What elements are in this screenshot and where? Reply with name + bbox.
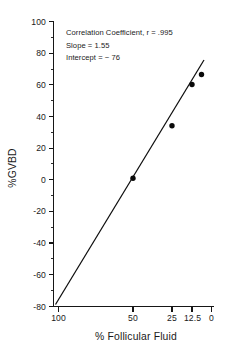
statistics-annotation: Correlation Coefficient, r = .995 Slope …	[66, 28, 173, 62]
y-tick-label: 40	[36, 112, 46, 122]
x-tick-label: 100	[51, 313, 66, 323]
data-point	[199, 72, 204, 77]
x-axis-title: % Follicular Fluid	[95, 331, 177, 342]
y-tick-label: 20	[36, 143, 46, 153]
annotation-intercept: Intercept = − 76	[66, 53, 120, 62]
y-tick-label: 60	[36, 80, 46, 90]
y-tick-label: -40	[33, 238, 46, 248]
annotation-correlation: Correlation Coefficient, r = .995	[66, 28, 173, 37]
chart-figure: 100 80 60 40 20 0 -20 -40 -60 -80 100 50…	[0, 0, 226, 355]
x-tick-label: 25	[167, 313, 177, 323]
y-tick-label: -20	[33, 206, 46, 216]
scatter-plot-svg: 100 80 60 40 20 0 -20 -40 -60 -80 100 50…	[0, 0, 226, 355]
y-tick-label: 100	[31, 17, 46, 27]
x-tick-label: 50	[128, 313, 138, 323]
y-axis-title: %GVBD	[7, 148, 18, 187]
y-tick-label: 0	[41, 175, 46, 185]
x-axis-tick-labels: 100 50 25 12.5 0	[51, 313, 214, 323]
x-axis-major-ticks	[59, 307, 212, 312]
y-tick-label: 80	[36, 48, 46, 58]
annotation-slope: Slope = 1.55	[66, 41, 109, 50]
x-tick-label: 0	[209, 313, 214, 323]
data-points	[130, 72, 204, 181]
x-tick-label: 12.5	[184, 313, 201, 323]
data-point	[169, 123, 174, 128]
regression-line	[56, 60, 205, 305]
data-point	[189, 82, 194, 87]
data-point	[130, 176, 135, 181]
y-axis-tick-labels: 100 80 60 40 20 0 -20 -40 -60 -80	[31, 17, 46, 312]
y-tick-label: -60	[33, 270, 46, 280]
y-tick-label: -80	[33, 302, 46, 312]
